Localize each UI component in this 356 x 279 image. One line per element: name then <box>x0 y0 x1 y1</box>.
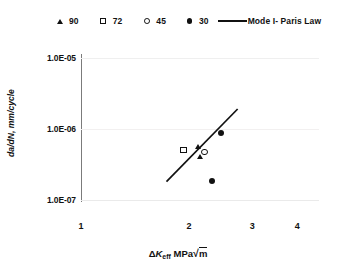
x-axis-unit: MPa <box>174 248 194 259</box>
y-tick-1e-06: 1.0E-06 <box>22 124 76 134</box>
y-axis-title: da/dN, mm/cycle <box>6 68 16 178</box>
x-tick-1: 1 <box>71 221 91 231</box>
data-point-72 <box>180 147 186 153</box>
paris-law-fit-line <box>81 58 319 200</box>
filled-circle-marker-icon <box>182 15 197 27</box>
legend-label-45: 45 <box>154 16 166 26</box>
y-tick-1e-05: 1.0E-05 <box>22 53 76 63</box>
data-point-45 <box>201 149 207 155</box>
chart-figure: 90 72 45 30 Mode I- Paris Law 1.0E-05 1.… <box>0 0 356 279</box>
y-tick-1e-07: 1.0E-07 <box>22 195 76 205</box>
data-point-90 <box>195 144 201 149</box>
legend-label-paris-law: Mode I- Paris Law <box>247 16 322 26</box>
plot-area <box>81 58 319 200</box>
legend-entry-paris-law: Mode I- Paris Law <box>218 13 322 29</box>
x-tick-3: 3 <box>242 221 262 231</box>
radical-icon: √ <box>193 247 199 259</box>
x-tick-2: 2 <box>179 221 199 231</box>
y-tick-labels: 1.0E-05 1.0E-06 1.0E-07 <box>20 0 76 279</box>
open-circle-marker-icon <box>139 15 154 27</box>
x-axis-m: m <box>199 247 207 259</box>
data-point-30 <box>218 130 224 136</box>
gridline-1e-07 <box>81 200 319 201</box>
x-axis-subscript-eff: eff <box>162 253 171 260</box>
legend-entry-72: 72 <box>96 13 123 29</box>
legend-label-30: 30 <box>197 16 209 26</box>
chart-legend: 90 72 45 30 Mode I- Paris Law <box>52 13 334 29</box>
legend-entry-45: 45 <box>139 13 166 29</box>
open-square-marker-icon <box>96 15 111 27</box>
data-point-30 <box>209 178 215 184</box>
x-tick-4: 4 <box>287 221 307 231</box>
legend-label-72: 72 <box>111 16 123 26</box>
legend-entry-30: 30 <box>182 13 209 29</box>
line-marker-icon <box>218 15 247 27</box>
x-axis-title: ΔKeff MPa√m <box>0 247 356 260</box>
